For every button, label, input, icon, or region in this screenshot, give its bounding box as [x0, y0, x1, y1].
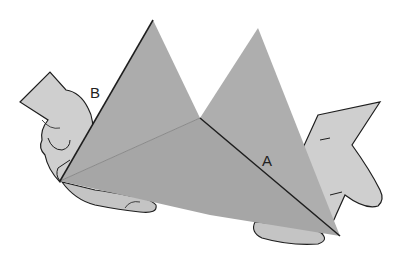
label-b: B: [90, 84, 100, 101]
folded-paper-illustration: B A: [0, 0, 406, 264]
label-a: A: [262, 152, 272, 169]
